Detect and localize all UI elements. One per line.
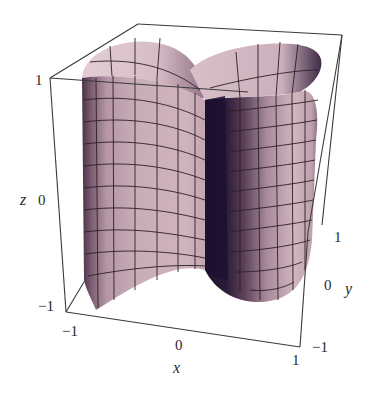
z-tick-top: 1 [35,72,43,88]
surface-plot: 1 z 0 −1 −1 0 x 1 −1 0 y 1 [0,0,372,394]
x-tick-mid: 0 [175,337,183,353]
x-axis-labels: −1 0 x 1 [62,323,300,376]
y-tick-mid: 0 [324,277,332,293]
y-axis-labels: −1 0 y 1 [312,229,353,355]
x-axis-label: x [172,359,180,376]
x-tick-left: −1 [62,323,78,339]
x-tick-right: 1 [292,352,300,368]
z-tick-mid: 0 [38,192,46,208]
y-tick-top: 1 [334,229,342,245]
y-tick-bottom: −1 [312,339,328,355]
z-axis-labels: 1 z 0 −1 [19,72,54,314]
z-axis-label: z [19,191,27,208]
y-axis-label: y [343,280,353,298]
z-tick-bottom: −1 [38,298,54,314]
